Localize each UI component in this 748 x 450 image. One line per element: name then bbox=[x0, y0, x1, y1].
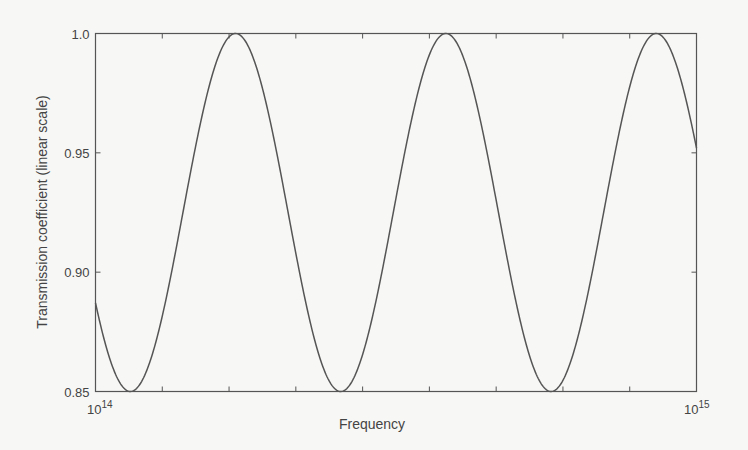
x-axis-label: Frequency bbox=[339, 416, 405, 432]
plot-area bbox=[96, 34, 697, 392]
transmission-curve bbox=[96, 34, 697, 392]
x-tick-label-max: 1015 bbox=[684, 399, 710, 417]
y-axis-label: Transmission coefficient (linear scale) bbox=[34, 95, 50, 328]
y-tick-label: 0.95 bbox=[64, 146, 89, 161]
y-tick-label: 1.0 bbox=[71, 27, 89, 42]
y-tick-labels: 1.00.950.900.85 bbox=[64, 27, 89, 400]
x-minor-ticks bbox=[162, 34, 629, 392]
chart: 1.00.950.900.85 1014 1015 Frequency Tran… bbox=[0, 0, 748, 450]
y-tick-label: 0.85 bbox=[64, 385, 89, 400]
y-tick-label: 0.90 bbox=[64, 265, 89, 280]
plot-frame bbox=[96, 34, 697, 392]
x-tick-label-min: 1014 bbox=[87, 399, 113, 417]
y-ticks bbox=[96, 34, 697, 392]
